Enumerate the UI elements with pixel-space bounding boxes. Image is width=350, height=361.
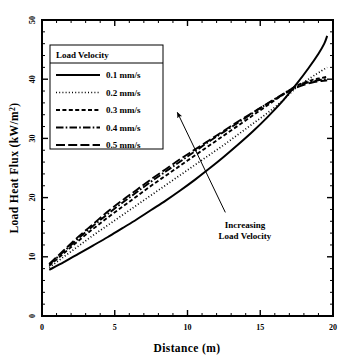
legend-label-0-5-mm-s: 0.5 mm/s (106, 140, 141, 150)
x-axis-title: Distance (m) (153, 342, 220, 355)
y-axis-title-base: Load Heat Flux (kW/m (8, 111, 21, 234)
chart-legend[interactable]: Load Velocity 0.1 mm/s0.2 mm/s0.3 mm/s0.… (50, 45, 163, 150)
y-tick-label: 50 (28, 16, 37, 24)
legend-label-0-4-mm-s: 0.4 mm/s (106, 123, 141, 133)
chart-figure: 05101520 01020304050 Distance (m) Load H… (0, 0, 350, 361)
legend-label-0-2-mm-s: 0.2 mm/s (106, 88, 141, 98)
x-tick-label: 20 (329, 323, 337, 332)
y-tick-label: 10 (28, 253, 37, 261)
x-tick-label: 5 (113, 323, 117, 332)
legend-label-0-3-mm-s: 0.3 mm/s (106, 105, 141, 115)
y-tick-label: 20 (28, 194, 37, 202)
annotation-line-2: Load Velocity (219, 231, 272, 241)
y-tick-label: 40 (28, 75, 37, 83)
annotation-line-1: Increasing (225, 220, 266, 230)
x-tick-label: 0 (40, 323, 44, 332)
y-axis-title: Load Heat Flux (kW/m2) (8, 102, 21, 233)
line-chart: 05101520 01020304050 Distance (m) Load H… (0, 0, 350, 361)
y-axis-title-close: ) (8, 102, 21, 106)
x-tick-label: 15 (256, 323, 264, 332)
y-tick-label: 30 (28, 134, 37, 142)
y-tick-label: 0 (28, 314, 37, 318)
legend-label-0-1-mm-s: 0.1 mm/s (106, 70, 141, 80)
x-tick-label: 10 (184, 323, 192, 332)
legend-title: Load Velocity (56, 50, 109, 60)
